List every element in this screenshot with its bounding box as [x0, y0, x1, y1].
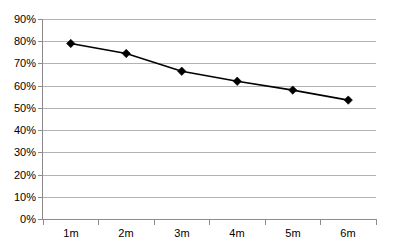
- data-point-marker: [178, 67, 186, 75]
- data-series-layer: [0, 0, 393, 248]
- line-chart: 90% 80% 70% 60% 50% 40% 30% 20% 10% 0% 1…: [0, 0, 393, 248]
- data-point-marker: [289, 86, 297, 94]
- data-point-marker: [233, 77, 241, 85]
- series-markers: [67, 39, 353, 104]
- series-line: [71, 43, 349, 100]
- data-point-marker: [67, 39, 75, 47]
- data-point-marker: [122, 49, 130, 57]
- data-point-marker: [344, 96, 352, 104]
